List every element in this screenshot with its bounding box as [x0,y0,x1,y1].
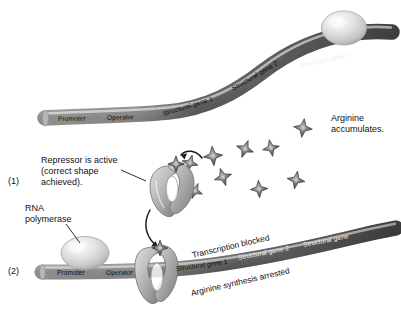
callout-repressor-active-line1: Repressor is active [41,155,118,166]
arginine-star [250,180,269,199]
callout-repressor-active-line3: achieved). [41,177,83,188]
dna-end-cap-top [42,110,48,126]
arginine-star [212,166,235,189]
arginine-star [286,170,307,191]
callout-rna-polymerase-line1: RNA [25,203,44,214]
top-segment-label-operator: Operator [107,113,134,121]
rna-polymerase-on-promoter [61,237,109,270]
bottom-segment-label-promoter: Promoter [57,269,85,276]
arginine-star [292,117,313,138]
step-marker-1: (1) [8,176,19,187]
arginine-molecule-group [180,117,314,201]
callout-arginine-accumulates-line2: accumulates. [331,124,384,135]
bottom-segment-label-operator: Operator [106,269,133,276]
dna-end-cap-bottom [40,265,46,280]
callout-repressor-active-line2: (correct shape [41,166,99,177]
arrow-repressor-to-operator [146,210,158,247]
repressor-protein-bound [135,240,178,303]
arginine-star [233,137,256,160]
top-segment-label-promoter: Promoter [58,115,86,122]
callout-arginine-accumulates-line1: Arginine [331,113,364,124]
arginine-star [261,138,281,158]
rna-polymerase-released [322,11,367,45]
step-marker-2: (2) [8,266,19,277]
callout-rna-polymerase-line2: polymerase [25,214,72,225]
arginine-star [202,145,223,166]
leader-line-repressor [121,170,146,181]
diagram-canvas: (1) (2) Repressor is active (correct sha… [0,0,401,315]
